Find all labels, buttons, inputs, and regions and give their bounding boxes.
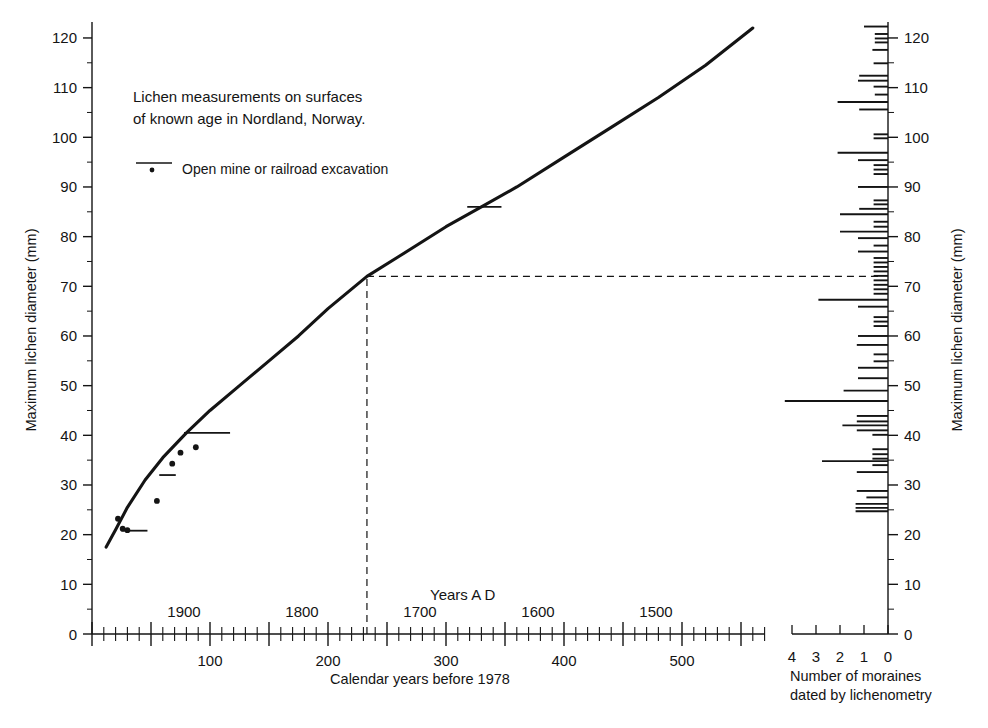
calibration-point <box>115 516 121 522</box>
histogram-tick-label: 2 <box>836 648 844 665</box>
lichenometry-figure: 0102030405060708090100110120 01020304050… <box>0 0 988 728</box>
histogram-tick-label: 4 <box>788 648 796 665</box>
calibration-point <box>169 461 175 467</box>
y-tick-label-right: 90 <box>904 178 921 195</box>
y-tick-label-right: 100 <box>904 129 929 146</box>
lichen-growth-curve <box>106 28 753 547</box>
y-axis-right-ticks <box>888 38 898 634</box>
x-tick-label-years-before: 200 <box>315 652 340 669</box>
y-tick-label-left: 110 <box>53 79 77 96</box>
y-tick-label-left: 100 <box>52 129 77 146</box>
legend-point-icon <box>150 168 155 173</box>
histogram-tick-label: 1 <box>860 648 868 665</box>
calibration-point <box>178 450 184 456</box>
histogram-title-line-2: dated by lichenometry <box>790 687 933 703</box>
y-tick-label-right: 40 <box>904 427 921 444</box>
histogram-tick-label: 0 <box>884 648 892 665</box>
calibration-point <box>125 527 131 533</box>
y-tick-label-right: 20 <box>904 526 921 543</box>
x-tick-label-years-ad: 1600 <box>521 603 554 620</box>
y-tick-label-right: 30 <box>904 476 921 493</box>
y-tick-label-left: 30 <box>60 476 77 493</box>
y-tick-label-left: 10 <box>60 576 77 593</box>
histogram-title-line-1: Number of moraines <box>790 668 921 684</box>
y-tick-label-right: 0 <box>904 626 912 643</box>
y-tick-label-right: 80 <box>904 228 921 245</box>
y-tick-label-right: 50 <box>904 377 921 394</box>
y-tick-label-left: 120 <box>52 29 77 46</box>
calibration-age-bars <box>122 207 502 531</box>
histogram-axis-ticks <box>792 625 888 634</box>
y-tick-label-left: 50 <box>60 377 77 394</box>
x-tick-label-years-before: 100 <box>197 652 222 669</box>
y-tick-label-left: 40 <box>60 427 77 444</box>
chart-canvas: 0102030405060708090100110120 01020304050… <box>0 0 988 728</box>
y-tick-label-left: 20 <box>60 526 77 543</box>
y-tick-label-right: 60 <box>904 327 921 344</box>
y-tick-label-right: 120 <box>904 29 929 46</box>
x-tick-label-years-before: 500 <box>669 652 694 669</box>
x-tick-label-years-before: 400 <box>551 652 576 669</box>
y-tick-label-left: 0 <box>69 626 77 643</box>
y-tick-label-right: 70 <box>904 278 921 295</box>
x-axis-labels-years-before: 100200300400500 <box>197 652 694 669</box>
y-tick-label-right: 10 <box>904 576 921 593</box>
y-axis-left-ticks <box>83 38 92 634</box>
legend-label: Open mine or railroad excavation <box>182 161 388 177</box>
years-ad-label: Years A D <box>430 586 495 603</box>
histogram-tick-label: 3 <box>812 648 820 665</box>
moraine-histogram-bars <box>785 27 888 512</box>
x-tick-label-years-ad: 1900 <box>167 603 200 620</box>
y-tick-label-left: 90 <box>60 178 77 195</box>
annotation-block: Lichen measurements on surfaces of known… <box>133 88 365 127</box>
y-tick-label-left: 70 <box>60 278 77 295</box>
annotation-line-2: of known age in Nordland, Norway. <box>133 110 365 127</box>
x-tick-label-years-ad: 1700 <box>403 603 436 620</box>
calibration-point <box>193 444 199 450</box>
x-tick-label-years-ad: 1500 <box>639 603 672 620</box>
x-axis-title: Calendar years before 1978 <box>330 671 510 687</box>
y-tick-label-right: 110 <box>904 79 928 96</box>
legend: Open mine or railroad excavation <box>136 161 388 177</box>
y-axis-left-title: Maximum lichen diameter (mm) <box>23 228 39 431</box>
y-tick-label-left: 80 <box>60 228 77 245</box>
x-tick-label-years-ad: 1800 <box>285 603 318 620</box>
y-axis-right-title: Maximum lichen diameter (mm) <box>949 228 965 431</box>
y-axis-left-labels: 0102030405060708090100110120 <box>52 29 77 642</box>
reference-dashed-lines <box>367 276 880 634</box>
histogram-axis-labels: 43210 <box>788 648 892 665</box>
y-tick-label-left: 60 <box>60 327 77 344</box>
annotation-line-1: Lichen measurements on surfaces <box>133 88 362 105</box>
x-axis-labels-years-ad: 19001800170016001500 <box>167 603 672 620</box>
calibration-data-points <box>115 444 199 533</box>
y-axis-right-labels: 0102030405060708090100110120 <box>904 29 929 642</box>
calibration-point <box>154 498 160 504</box>
x-tick-label-years-before: 300 <box>433 652 458 669</box>
